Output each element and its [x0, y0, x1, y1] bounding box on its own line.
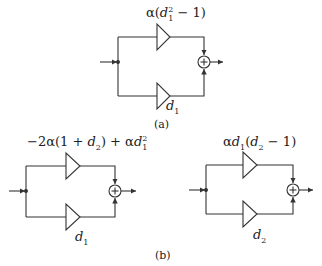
panel-b-right-top-gain-label: αd1(d2 − 1) — [223, 135, 296, 148]
panel-b-caption: (b) — [155, 250, 171, 261]
panel-a-top-gain-label: α(d12 − 1) — [146, 6, 206, 19]
panel-b-right-bottom-gain-label: d2 — [253, 228, 266, 241]
panel-b-left-bottom-gain-label: d1 — [75, 230, 88, 243]
diagram-lines — [0, 0, 322, 266]
block-diagram-figure: α(d12 − 1) d1 (a) −2α(1 + d2) + αd12 d1 … — [0, 0, 322, 266]
panel-a-diagram — [100, 24, 223, 109]
panel-b-left-top-gain-label: −2α(1 + d2) + αd12 — [27, 135, 147, 148]
panel-b-right-diagram — [189, 152, 313, 227]
panel-b-left-diagram — [9, 153, 136, 230]
panel-a-bottom-gain-label: d1 — [166, 99, 179, 112]
panel-a-caption: (a) — [154, 119, 169, 130]
